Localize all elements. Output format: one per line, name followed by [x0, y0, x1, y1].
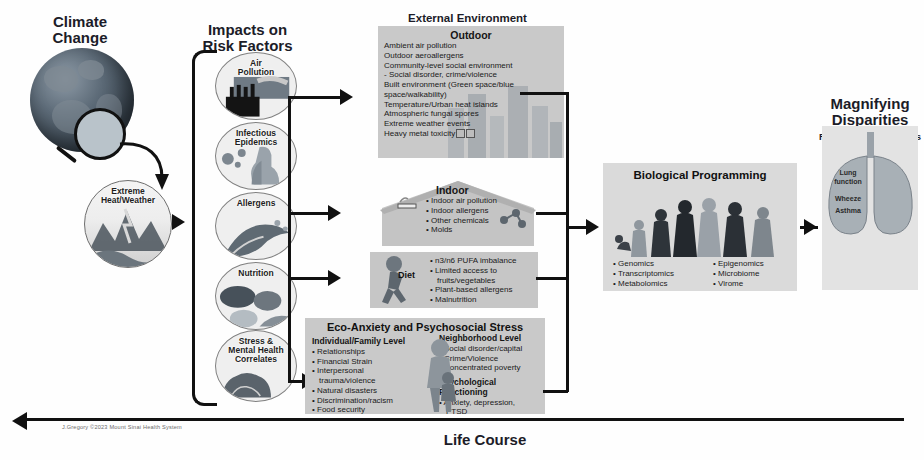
- individual-family-item: • Financial Strain: [312, 357, 422, 367]
- panel-title-eco-anxiety: Eco-Anxiety and Psychosocial Stress: [305, 321, 545, 333]
- biological-item: • Metabolomics: [613, 279, 674, 289]
- running-person-icon: [372, 256, 418, 306]
- outdoor-item: - Social disorder, crime/violence: [384, 70, 558, 80]
- risk-factor-label: Nutrition: [216, 269, 296, 278]
- arrow-to-indoor: [328, 205, 341, 221]
- cigarette-smoke-icon: [392, 192, 422, 216]
- panel-title-diet: Diet: [398, 270, 415, 280]
- food-produce-icon: [216, 285, 295, 329]
- label-life-course: Life Course: [400, 432, 570, 448]
- extreme-heat-weather-label: Extreme Heat/Weather: [85, 187, 171, 205]
- connector-diet-out: [536, 277, 568, 280]
- risk-factor-label: Allergens: [216, 199, 296, 208]
- individual-family-item: trauma/violence: [312, 376, 422, 386]
- outdoor-item: Atmospheric fungal spores: [384, 109, 558, 119]
- parent-child-silhouette-icon: [417, 338, 463, 412]
- indoor-item-list: • Indoor air pollution• Indoor allergens…: [426, 196, 497, 235]
- arrow-to-respiratory-outcomes: [804, 219, 817, 235]
- lungs-icon: [822, 130, 918, 250]
- factory-smokestack-icon: [216, 75, 295, 119]
- risk-factor-infectious-epidemics: Infectious Epidemics: [215, 122, 297, 192]
- panel-diet: Diet • n3/n6 PUFA imbalance• Limited acc…: [370, 252, 538, 308]
- biological-item: • Epigenomics: [713, 259, 764, 269]
- connector-to-indoor: [288, 212, 332, 215]
- outdoor-item: Built environment (Green space/blue: [384, 80, 558, 90]
- biological-item: • Virome: [713, 279, 764, 289]
- risk-factor-air-pollution: Air Pollution: [215, 52, 297, 122]
- biological-right-item-list: • Epigenomics• Microbiome• Virome: [713, 259, 764, 288]
- panel-biological-programming: Biological Programming • Genomics• Trans…: [603, 163, 797, 291]
- connector-eco-out: [543, 390, 568, 393]
- subtitle-individual-family-level: Individual/Family Level: [312, 337, 422, 347]
- pollen-plant-icon: [216, 215, 295, 259]
- outdoor-item-list: Ambient air pollutionOutdoor aeroallerge…: [384, 41, 558, 139]
- virus-lungs-icon: [216, 145, 295, 189]
- indoor-item: • Other chemicals: [426, 216, 497, 226]
- arrow-to-diet: [328, 270, 341, 286]
- biological-item: • Microbiome: [713, 269, 764, 279]
- diet-item: • Plant-based allergens: [430, 285, 516, 295]
- panel-respiratory-outcomes: Lung function Wheeze Asthma Allergies: [822, 126, 918, 290]
- diet-item: fruits/vegetables: [430, 276, 516, 286]
- individual-family-item: • Discrimination/racism: [312, 396, 422, 406]
- image-placeholder-icon: [466, 129, 475, 138]
- indoor-item: • Indoor air pollution: [426, 196, 497, 206]
- risk-factor-stress-mental-health: Stress & Mental Health Correlates: [215, 330, 297, 404]
- individual-family-item-list: • Relationships• Financial Strain• Inter…: [312, 347, 422, 415]
- risk-factor-label: Infectious Epidemics: [216, 129, 296, 147]
- connector-to-outdoor: [288, 96, 344, 99]
- life-course-axis: [24, 418, 904, 421]
- indoor-item: • Molds: [426, 225, 497, 235]
- connector-indoor-out: [536, 212, 568, 215]
- diet-item-list: • n3/n6 PUFA imbalance• Limited access t…: [430, 256, 516, 305]
- page-title-climate-change: Climate Change: [20, 14, 140, 46]
- brain-stress-icon: [216, 367, 277, 401]
- diet-item: • Limited access to: [430, 266, 516, 276]
- individual-family-item: • Natural disasters: [312, 386, 422, 396]
- connector-trunk-right: [566, 92, 569, 392]
- label-asthma: Asthma: [828, 206, 868, 215]
- biological-item: • Transcriptomics: [613, 269, 674, 279]
- section-title-magnifying-disparities: Magnifying Disparities: [815, 96, 924, 128]
- arrow-to-biological-programming: [586, 219, 599, 235]
- panel-eco-anxiety: Eco-Anxiety and Psychosocial Stress Indi…: [305, 318, 545, 414]
- risk-factor-nutrition: Nutrition: [215, 262, 297, 332]
- diagram-canvas: Climate Change Impacts on Risk Factors E…: [0, 0, 924, 460]
- risk-factor-allergens: Allergens: [215, 192, 297, 262]
- arrow-heat-to-risk-factors: [172, 214, 185, 230]
- outdoor-item: Heavy metal toxicity: [384, 129, 558, 139]
- indoor-item: • Indoor allergens: [426, 206, 497, 216]
- extreme-heat-weather-node: Extreme Heat/Weather: [84, 180, 172, 268]
- panel-title-indoor: Indoor: [418, 184, 506, 196]
- image-placeholder-icon: [456, 129, 465, 138]
- risk-factors-bracket: [192, 50, 217, 406]
- diet-item: • n3/n6 PUFA imbalance: [430, 256, 516, 266]
- arrow-to-outdoor: [340, 89, 353, 105]
- credit-line: J.Gregory ©2023 Mount Sinai Health Syste…: [62, 424, 182, 430]
- label-lung-function: Lung function: [828, 168, 868, 187]
- section-title-external-environment: External Environment: [360, 12, 575, 24]
- connector-outdoor-out: [520, 92, 568, 95]
- outdoor-item: Outdoor aeroallergens: [384, 51, 558, 61]
- arrow-life-course-left: [12, 412, 27, 430]
- individual-family-item: • Relationships: [312, 347, 422, 357]
- biological-left-item-list: • Genomics• Transcriptomics• Metabolomic…: [613, 259, 674, 288]
- risk-factor-label: Stress & Mental Health Correlates: [216, 337, 296, 364]
- life-stages-silhouettes-icon: [609, 187, 791, 257]
- individual-family-item: • Food security: [312, 405, 422, 415]
- chemical-molecule-icon: [496, 208, 530, 230]
- panel-title-outdoor: Outdoor: [384, 29, 558, 41]
- panel-indoor: Indoor • Indoor air pollution• Indoor al…: [378, 180, 538, 246]
- individual-family-item: • Interpersonal: [312, 366, 422, 376]
- panel-title-biological-programming: Biological Programming: [603, 169, 797, 181]
- outdoor-item: Temperature/Urban heat islands: [384, 100, 558, 110]
- outdoor-item: Extreme weather events: [384, 119, 558, 129]
- label-wheeze: Wheeze: [828, 194, 868, 203]
- biological-item: • Genomics: [613, 259, 674, 269]
- diet-item: • Malnutrition: [430, 295, 516, 305]
- risk-factor-label: Air Pollution: [216, 59, 296, 77]
- outdoor-item: Ambient air pollution: [384, 41, 558, 51]
- outdoor-item: Community-level social environment: [384, 61, 558, 71]
